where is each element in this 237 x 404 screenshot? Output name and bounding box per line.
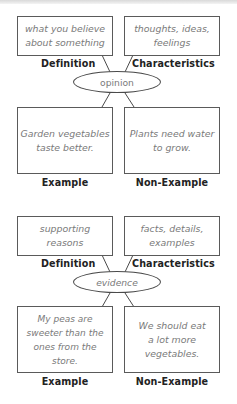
definition-text-line: reasons xyxy=(40,236,91,250)
non-example-box: We should eat a lot more vegetables. xyxy=(124,306,220,373)
non-example-text-line: Plants need water xyxy=(130,127,215,141)
characteristics-label: Characteristics xyxy=(132,58,215,69)
non-example-label: Non-Example xyxy=(124,177,220,188)
concept-term: evidence xyxy=(96,277,138,288)
characteristics-box: thoughts, ideas, feelings xyxy=(124,16,220,56)
characteristics-label: Characteristics xyxy=(132,258,215,269)
example-text-line: ones from the store. xyxy=(20,340,110,368)
non-example-text-line: to grow. xyxy=(130,141,215,155)
definition-text-line: what you believe xyxy=(25,22,105,36)
frayer-model-evidence: supporting reasons Definition facts, det… xyxy=(0,200,237,400)
characteristics-box: facts, details, examples xyxy=(124,216,220,256)
example-box: My peas are sweeter than the ones from t… xyxy=(17,306,113,373)
definition-box: supporting reasons xyxy=(17,216,113,256)
characteristics-text-line: facts, details, xyxy=(141,222,204,236)
concept-term: opinion xyxy=(100,77,134,88)
non-example-text-line: a lot more xyxy=(138,333,205,347)
definition-label: Definition xyxy=(17,258,113,269)
definition-label: Definition xyxy=(17,58,113,69)
characteristics-text-line: examples xyxy=(141,236,204,250)
definition-text-line: about something xyxy=(25,36,105,50)
example-label: Example xyxy=(17,376,113,387)
example-box: Garden vegetables taste better. xyxy=(17,107,113,174)
example-text-line: Garden vegetables xyxy=(20,127,109,141)
characteristics-text-line: thoughts, ideas, xyxy=(134,22,210,36)
example-text-line: My peas are xyxy=(20,312,110,326)
non-example-text-line: vegetables. xyxy=(138,347,205,361)
non-example-label: Non-Example xyxy=(124,376,220,387)
definition-box: what you believe about something xyxy=(17,16,113,56)
example-text-line: sweeter than the xyxy=(20,326,110,340)
non-example-text-line: We should eat xyxy=(138,319,205,333)
example-text-line: taste better. xyxy=(20,141,109,155)
concept-ellipse: opinion xyxy=(73,71,161,93)
concept-ellipse: evidence xyxy=(73,271,161,293)
non-example-box: Plants need water to grow. xyxy=(124,107,220,174)
example-label: Example xyxy=(17,177,113,188)
frayer-model-opinion: what you believe about something Definit… xyxy=(0,0,237,200)
definition-text-line: supporting xyxy=(40,222,91,236)
characteristics-text-line: feelings xyxy=(134,36,210,50)
